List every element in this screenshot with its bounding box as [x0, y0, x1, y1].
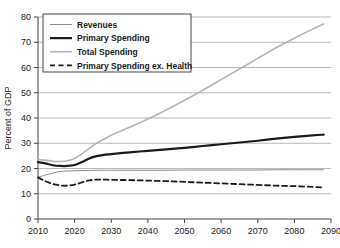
- x-tick-label: 2080: [284, 226, 304, 236]
- x-tick-label: 2060: [211, 226, 231, 236]
- legend-label-0: Revenues: [77, 20, 117, 30]
- y-tick-label: 40: [21, 113, 31, 123]
- y-tick-label: 80: [21, 12, 31, 22]
- y-tick-label: 70: [21, 37, 31, 47]
- chart-container: 01020304050607080 2010202020302040205020…: [0, 0, 340, 248]
- y-tick-label: 30: [21, 138, 31, 148]
- x-tick-label: 2030: [101, 226, 121, 236]
- legend-label-2: Total Spending: [77, 47, 138, 57]
- line-chart: 01020304050607080 2010202020302040205020…: [0, 0, 340, 248]
- x-tick-label: 2010: [28, 226, 48, 236]
- x-tick-label: 2050: [174, 226, 194, 236]
- series-line-0: [38, 170, 324, 178]
- y-axis-title: Percent of GDP: [3, 86, 13, 149]
- y-tick-label: 60: [21, 63, 31, 73]
- series-line-3: [38, 177, 324, 187]
- x-tick-label: 2070: [248, 226, 268, 236]
- legend-label-3: Primary Spending ex. Health: [77, 61, 192, 71]
- x-tick-label: 2090: [321, 226, 340, 236]
- y-tick-label: 0: [26, 214, 31, 224]
- x-axis-ticks: 201020202030204020502060207020802090: [28, 219, 340, 236]
- y-tick-label: 50: [21, 88, 31, 98]
- chart-legend: RevenuesPrimary SpendingTotal SpendingPr…: [43, 14, 192, 72]
- y-tick-label: 10: [21, 189, 31, 199]
- x-tick-label: 2020: [65, 226, 85, 236]
- series-line-1: [38, 135, 324, 166]
- y-tick-label: 20: [21, 164, 31, 174]
- legend-label-1: Primary Spending: [77, 33, 150, 43]
- y-axis-ticks: 01020304050607080: [21, 12, 38, 224]
- x-tick-label: 2040: [138, 226, 158, 236]
